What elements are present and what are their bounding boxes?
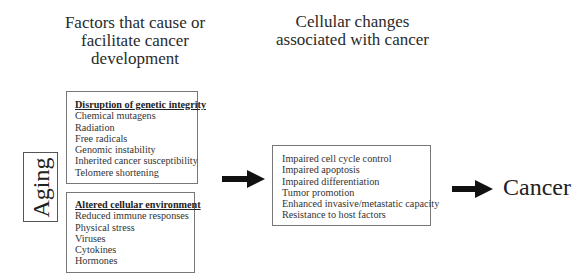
heading-factors: Factors that cause or facilitate cancer … <box>60 14 210 68</box>
list-item: Viruses <box>75 233 186 244</box>
list-item: Genomic instability <box>75 144 189 155</box>
cellular-changes-box: Impaired cell cycle control Impaired apo… <box>272 145 431 226</box>
cellular-environment-title: Altered cellular environment <box>75 199 186 210</box>
list-item: Impaired differentiation <box>282 176 422 187</box>
list-item: Reduced immune responses <box>75 210 186 221</box>
heading-cellular-changes: Cellular changes associated with cancer <box>270 13 435 49</box>
list-item: Free radicals <box>75 133 189 144</box>
list-item: Chemical mutagens <box>75 110 189 121</box>
list-item: Inherited cancer susceptibility <box>75 155 189 166</box>
list-item: Enhanced invasive/metastatic capacity <box>282 198 422 209</box>
list-item: Telomere shortening <box>75 167 189 178</box>
aging-box: Aging <box>23 152 58 222</box>
list-item: Hormones <box>75 255 186 266</box>
list-item: Physical stress <box>75 222 186 233</box>
list-item: Resistance to host factors <box>282 209 422 220</box>
list-item: Tumor promotion <box>282 187 422 198</box>
cancer-label: Cancer <box>503 174 571 201</box>
genetic-integrity-box: Disruption of genetic integrity Chemical… <box>66 91 198 184</box>
arrow-right-icon <box>452 179 494 199</box>
aging-label: Aging <box>27 157 54 217</box>
arrow-right-icon <box>222 169 266 189</box>
list-item: Cytokines <box>75 244 186 255</box>
list-item: Impaired cell cycle control <box>282 153 422 164</box>
genetic-integrity-title: Disruption of genetic integrity <box>75 99 189 110</box>
list-item: Radiation <box>75 122 189 133</box>
list-item: Impaired apoptosis <box>282 164 422 175</box>
cellular-environment-box: Altered cellular environment Reduced imm… <box>66 192 195 273</box>
